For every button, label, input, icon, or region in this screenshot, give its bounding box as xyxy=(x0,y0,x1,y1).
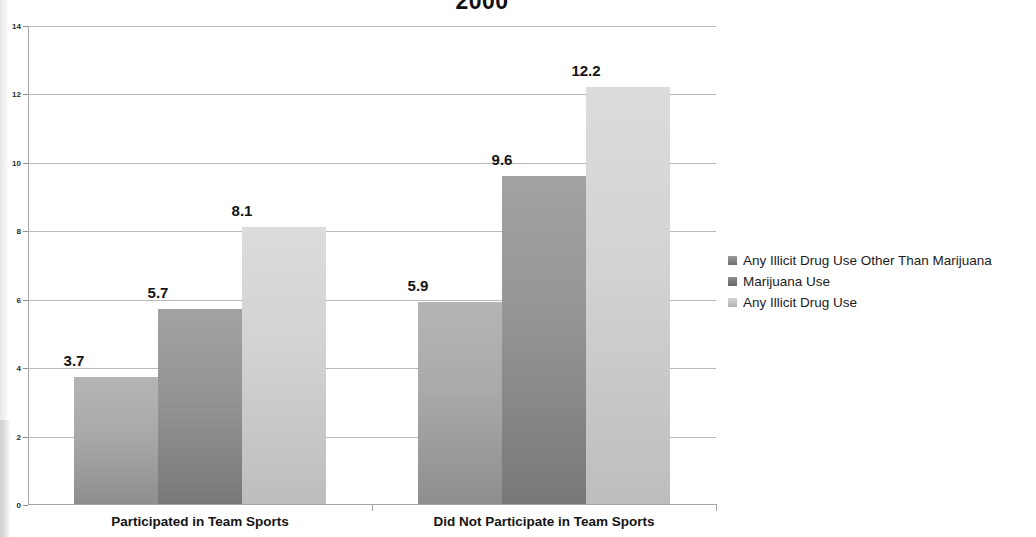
bar-value-label: 12.2 xyxy=(571,62,600,79)
y-tick-label: 6 xyxy=(17,295,21,304)
y-tick-label: 10 xyxy=(12,158,21,167)
y-tick-label: 8 xyxy=(17,227,21,236)
legend-item-label: Any Illicit Drug Use Other Than Marijuan… xyxy=(743,253,992,268)
legend-item[interactable]: Marijuana Use xyxy=(728,271,992,292)
y-tick-mark xyxy=(23,231,28,232)
legend-swatch-icon xyxy=(728,256,737,265)
y-tick-mark xyxy=(23,94,28,95)
y-tick-mark xyxy=(23,505,28,506)
x-axis-tick xyxy=(372,504,373,511)
y-tick-label: 14 xyxy=(12,22,21,31)
y-tick-label: 0 xyxy=(17,501,21,510)
x-axis-tick xyxy=(716,504,717,511)
legend-item[interactable]: Any Illicit Drug Use Other Than Marijuan… xyxy=(728,250,992,271)
chart-legend: Any Illicit Drug Use Other Than Marijuan… xyxy=(728,250,992,313)
legend-item[interactable]: Any Illicit Drug Use xyxy=(728,292,992,313)
bar[interactable] xyxy=(502,176,586,504)
bar[interactable] xyxy=(74,377,158,504)
x-axis-category-label: Participated in Team Sports xyxy=(111,514,289,529)
legend-item-label: Any Illicit Drug Use xyxy=(743,295,857,310)
legend-swatch-icon xyxy=(728,298,737,307)
plot-area: 02468101214 3.75.78.15.99.612.2 xyxy=(28,26,716,505)
y-tick-mark xyxy=(23,437,28,438)
chart-title: 2000 xyxy=(0,0,1036,15)
bar[interactable] xyxy=(158,309,242,504)
y-tick-mark xyxy=(23,368,28,369)
chart-page: 2000 02468101214 3.75.78.15.99.612.2 Par… xyxy=(0,0,1036,537)
bar-value-label: 5.9 xyxy=(408,277,429,294)
y-tick-mark xyxy=(23,26,28,27)
y-tick-label: 2 xyxy=(17,432,21,441)
scan-edge-blotch-artifact xyxy=(0,420,11,537)
bar[interactable] xyxy=(586,87,670,504)
y-tick-mark xyxy=(23,300,28,301)
chart-title-text: 2000 xyxy=(455,0,508,14)
y-tick-mark xyxy=(23,163,28,164)
y-tick-label: 4 xyxy=(17,364,21,373)
y-tick-label: 12 xyxy=(12,90,21,99)
bar[interactable] xyxy=(418,302,502,504)
gridline xyxy=(28,26,716,27)
bar-value-label: 3.7 xyxy=(64,352,85,369)
bar-value-label: 5.7 xyxy=(148,284,169,301)
legend-swatch-icon xyxy=(728,277,737,286)
y-axis-line xyxy=(28,26,29,505)
legend-item-label: Marijuana Use xyxy=(743,274,830,289)
bar-value-label: 8.1 xyxy=(232,202,253,219)
bar-value-label: 9.6 xyxy=(492,151,513,168)
bar[interactable] xyxy=(242,227,326,504)
x-axis-category-label: Did Not Participate in Team Sports xyxy=(433,514,654,529)
